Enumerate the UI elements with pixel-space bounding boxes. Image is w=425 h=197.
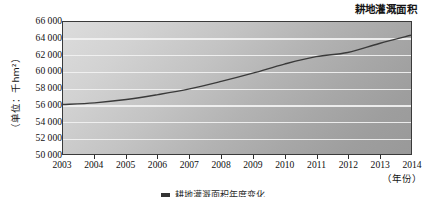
x-tick-label: 2010 (275, 159, 294, 170)
x-axis-tick-labels: 2003200420052006200720082009201020112012… (0, 159, 425, 173)
figure-caption-text: 耕地灌溉面积年度变化 (0, 188, 425, 197)
x-tick-label: 2005 (116, 159, 135, 170)
x-tick-label: 2013 (371, 159, 390, 170)
y-tick-label: 52 000 (18, 132, 62, 143)
chart-title: 耕地灌溉面积 (355, 1, 417, 16)
x-tick-label: 2009 (243, 159, 262, 170)
x-tick-label: 2004 (84, 159, 103, 170)
x-tick-label: 2007 (180, 159, 199, 170)
y-tick-label: 62 000 (18, 49, 62, 60)
y-tick-label: 60 000 (18, 65, 62, 76)
x-tick-label: 2006 (148, 159, 167, 170)
x-tick-label: 2012 (339, 159, 358, 170)
x-tick-label: 2008 (211, 159, 230, 170)
y-tick-label: 56 000 (18, 99, 62, 110)
y-tick-label: 54 000 (18, 116, 62, 127)
series-line (63, 35, 411, 104)
caption-label: 耕地灌溉面积年度变化 (175, 190, 265, 197)
figure-caption: 耕地灌溉面积年度变化 (0, 188, 425, 197)
y-tick-label: 66 000 (18, 15, 62, 26)
line-series (63, 22, 411, 154)
plot-area (62, 21, 412, 155)
x-tick-label: 2014 (402, 159, 421, 170)
y-tick-label: 64 000 (18, 32, 62, 43)
chart-figure: 耕地灌溉面积 （单位：千hm²） 66 00064 00062 00060 00… (0, 0, 425, 197)
x-tick-label: 2003 (52, 159, 71, 170)
caption-marker-icon (161, 193, 170, 197)
y-tick-label: 58 000 (18, 82, 62, 93)
x-axis-label: （年份） (382, 171, 422, 185)
x-tick-label: 2011 (307, 159, 326, 170)
